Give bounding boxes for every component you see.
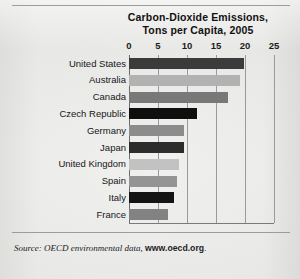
x-tick-label-10: 10 (182, 40, 193, 51)
category-label-united-kingdom: United Kingdom (5, 158, 126, 170)
category-label-czech-republic: Czech Republic (5, 108, 126, 120)
plot-area (129, 55, 274, 223)
chart-title-line-2: Tons per Capita, 2005 (108, 24, 288, 37)
chart-figure: Carbon-Dioxide Emissions, Tons per Capit… (0, 0, 300, 279)
bar-row (129, 173, 274, 190)
gridline-25 (274, 55, 275, 223)
chart-title-line-1: Carbon-Dioxide Emissions, (108, 11, 288, 24)
category-label-germany: Germany (5, 125, 126, 137)
bar-germany (129, 125, 184, 136)
figure-top-rule (12, 5, 290, 6)
bar-row (129, 206, 274, 223)
bar-rows (129, 55, 274, 223)
bar-australia (129, 75, 240, 86)
x-tick-label-15: 15 (211, 40, 222, 51)
chart-title: Carbon-Dioxide Emissions, Tons per Capit… (108, 11, 288, 36)
category-label-france: France (5, 209, 126, 221)
x-tick-label-5: 5 (155, 40, 160, 51)
bar-canada (129, 92, 228, 103)
bar-italy (129, 192, 174, 203)
bar-row (129, 89, 274, 106)
x-axis-tick-labels: 0510152025 (129, 40, 274, 53)
category-label-united-states: United States (5, 58, 126, 70)
bar-united-states (129, 58, 244, 69)
x-tick-label-0: 0 (126, 40, 131, 51)
bar-row (129, 105, 274, 122)
source-url[interactable]: www.oecd.org (145, 243, 204, 253)
source-suffix: . (204, 243, 206, 253)
category-label-italy: Italy (5, 192, 126, 204)
category-label-spain: Spain (5, 175, 126, 187)
bar-row (129, 156, 274, 173)
bar-united-kingdom (129, 159, 179, 170)
bar-czech-republic (129, 108, 197, 119)
x-axis-baseline (129, 223, 274, 224)
bar-row (129, 55, 274, 72)
bar-france (129, 209, 168, 220)
x-tick-label-25: 25 (269, 40, 280, 51)
figure-bottom-rule (12, 232, 290, 233)
bar-row (129, 72, 274, 89)
bar-row (129, 122, 274, 139)
category-label-australia: Australia (5, 74, 126, 86)
bar-spain (129, 176, 177, 187)
category-label-japan: Japan (5, 142, 126, 154)
bar-row (129, 139, 274, 156)
category-labels: United StatesAustraliaCanadaCzech Republ… (5, 55, 126, 223)
source-note: Source: OECD environmental data, www.oec… (14, 243, 206, 253)
bar-japan (129, 142, 184, 153)
category-label-canada: Canada (5, 91, 126, 103)
bar-row (129, 189, 274, 206)
source-prefix: Source: OECD environmental data, (14, 243, 143, 253)
x-tick-label-20: 20 (240, 40, 251, 51)
